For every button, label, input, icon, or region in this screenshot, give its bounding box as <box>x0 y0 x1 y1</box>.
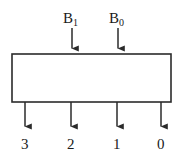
decoder-block <box>12 54 171 102</box>
output-label-1: 1 <box>113 137 121 152</box>
output-label-3: 3 <box>21 137 29 152</box>
input-label-b1-subscript: 1 <box>73 17 78 28</box>
input-label-b0-subscript: 0 <box>119 17 124 28</box>
diagram-canvas: B1 B0 3 2 1 0 <box>0 0 184 157</box>
diagram-svg <box>0 0 184 157</box>
input-label-b0: B0 <box>109 11 124 26</box>
output-label-2: 2 <box>67 137 75 152</box>
input-label-b0-base: B <box>109 10 119 26</box>
input-label-b1: B1 <box>63 11 78 26</box>
input-label-b1-base: B <box>63 10 73 26</box>
output-label-0: 0 <box>157 137 165 152</box>
